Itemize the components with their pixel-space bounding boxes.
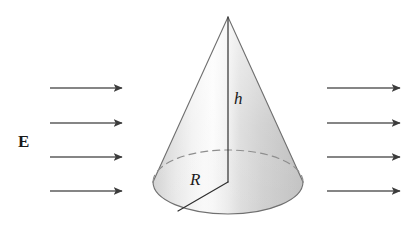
cone-field-diagram [0,0,415,230]
radius-label: R [190,171,200,188]
electric-field-label: E [18,133,29,150]
height-label: h [234,90,243,107]
field-arrows-left [50,88,122,191]
figure-canvas: E h R [0,0,415,230]
field-arrows-right [327,88,400,191]
